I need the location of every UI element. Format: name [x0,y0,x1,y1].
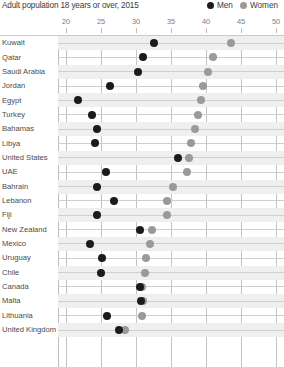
row-baseline [58,172,284,173]
row-baseline [58,129,284,130]
row-baseline [58,200,284,201]
category-label: Chile [2,268,19,277]
chart-row: Jordan [0,79,284,93]
category-label: Lithuania [2,311,33,320]
x-axis-tick-mark [136,28,137,33]
chart-row: Turkey [0,108,284,122]
data-point-men [97,269,105,277]
row-baseline [58,229,284,230]
x-axis-tick-label: 20 [62,17,70,26]
chart-row: Fiji [0,208,284,222]
category-label: Malta [2,296,21,305]
chart-row: Libya [0,136,284,150]
row-baseline [58,301,284,302]
category-label: Canada [2,282,29,291]
data-point-men [93,183,101,191]
data-point-men [88,111,96,119]
legend-label-women: Women [250,1,278,10]
data-point-men [93,211,101,219]
data-point-women [227,39,235,47]
data-point-women [163,197,171,205]
row-baseline [58,86,284,87]
chart-row: Bahamas [0,122,284,136]
category-label: New Zealand [2,225,47,234]
legend-item-men: Men [207,1,233,10]
category-label: Saudi Arabia [2,67,45,76]
category-label: Jordan [2,81,25,90]
data-point-women [163,211,171,219]
filled-circle-icon [207,2,214,9]
chart-row: Mexico [0,237,284,251]
data-point-women [199,82,207,90]
row-baseline [58,71,284,72]
data-point-men [136,226,144,234]
data-point-women [146,240,154,248]
data-point-men [102,168,110,176]
x-axis-tick-label: 25 [97,17,105,26]
chart-row: United States [0,151,284,165]
row-baseline [58,286,284,287]
chart-row: Kuwait [0,36,284,50]
category-label: Egypt [2,96,21,105]
category-label: United Kingdom [2,325,56,334]
legend-label-men: Men [217,1,233,10]
chart-row: Uruguay [0,251,284,265]
data-point-men [115,326,123,334]
category-label: Mexico [2,239,26,248]
data-point-men [86,240,94,248]
dot-plot-chart: Adult population 18 years or over, 2015 … [0,0,284,367]
chart-row: New Zealand [0,223,284,237]
category-label: UAE [2,167,18,176]
data-point-men [103,312,111,320]
page-title: Adult population 18 years or over, 2015 [2,1,139,10]
category-label: Fiji [2,210,12,219]
x-axis-tick-mark [66,28,67,33]
row-baseline [58,315,284,316]
x-axis-tick-label: 30 [132,17,140,26]
chart-row: Canada [0,280,284,294]
row-baseline [58,43,284,44]
data-point-women [141,269,149,277]
data-point-women [191,125,199,133]
chart-row: United Kingdom [0,323,284,337]
row-baseline [58,215,284,216]
category-label: Bahrain [2,182,28,191]
chart-row: Qatar [0,50,284,64]
data-point-men [174,154,182,162]
data-point-men [134,68,142,76]
data-point-women [185,154,193,162]
category-label: Uruguay [2,253,31,262]
chart-row: Saudi Arabia [0,65,284,79]
x-axis: 20253035404550 [0,16,284,36]
category-label: Qatar [2,53,21,62]
x-axis-tick-mark [171,28,172,33]
row-baseline [58,272,284,273]
chart-row: Malta [0,294,284,308]
data-point-women [204,68,212,76]
x-axis-tick-mark [241,28,242,33]
category-label: Kuwait [2,38,25,47]
row-baseline [58,330,284,331]
chart-row: Lebanon [0,194,284,208]
x-axis-tick-label: 50 [272,17,280,26]
row-baseline [58,157,284,158]
data-point-women [148,226,156,234]
category-label: United States [2,153,48,162]
legend-item-women: Women [240,1,278,10]
category-label: Bahamas [2,124,34,133]
x-axis-tick-label: 40 [202,17,210,26]
filled-circle-icon [240,2,247,9]
x-axis-tick-mark [101,28,102,33]
row-baseline [58,57,284,58]
data-point-men [98,254,106,262]
chart-row: Egypt [0,93,284,107]
row-baseline [58,100,284,101]
category-label: Turkey [2,110,25,119]
data-point-men [93,125,101,133]
chart-row: Bahrain [0,180,284,194]
chart-row: Chile [0,266,284,280]
x-axis-tick-mark [206,28,207,33]
plot-area: KuwaitQatarSaudi ArabiaJordanEgyptTurkey… [0,36,284,367]
chart-row: Lithuania [0,309,284,323]
category-label: Lebanon [2,196,32,205]
